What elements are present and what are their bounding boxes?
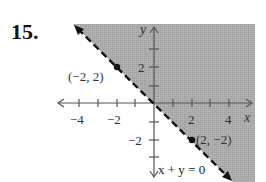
point-2-neg2 bbox=[189, 137, 195, 143]
inequality-graph: y x −4 −2 2 4 2 −2 (−2, 2) (2, −2) x + y… bbox=[0, 0, 266, 182]
point-label-neg2-2: (−2, 2) bbox=[68, 69, 104, 84]
tick-label-y-neg2: −2 bbox=[128, 133, 142, 148]
y-axis-label: y bbox=[138, 22, 147, 37]
tick-label-y-2: 2 bbox=[138, 60, 145, 75]
tick-label-x-neg4: −4 bbox=[70, 112, 84, 127]
point-neg2-2 bbox=[114, 64, 120, 70]
equation-label: x + y = 0 bbox=[158, 162, 205, 177]
tick-label-x-4: 4 bbox=[225, 112, 232, 127]
point-label-2-neg2: (2, −2) bbox=[196, 132, 232, 147]
tick-label-x-2: 2 bbox=[188, 112, 195, 127]
tick-label-x-neg2: −2 bbox=[107, 112, 121, 127]
x-axis-label: x bbox=[243, 110, 251, 125]
